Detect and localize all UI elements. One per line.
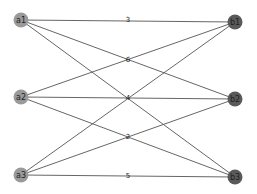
node-label: a1 — [16, 16, 26, 25]
node-b1: b1 — [228, 15, 243, 30]
node-b3: b3 — [228, 170, 243, 185]
node-a2: a2 — [14, 90, 29, 105]
node-label: a2 — [16, 93, 26, 102]
node-label: b3 — [230, 173, 240, 182]
node-label: a3 — [16, 171, 26, 180]
node-a1: a1 — [14, 13, 29, 28]
bipartite-graph: 36425 a1a2a3b1b2b3 — [0, 0, 257, 194]
node-label: b2 — [230, 95, 240, 104]
edge-weight-label: 2 — [126, 133, 130, 141]
edge-weight-label: 5 — [126, 172, 130, 180]
edge-weight-label: 4 — [126, 94, 131, 102]
node-b2: b2 — [228, 92, 243, 107]
node-label: b1 — [230, 18, 240, 27]
edge-weight-label: 6 — [126, 56, 131, 64]
edge-weight-label: 3 — [126, 16, 130, 24]
node-a3: a3 — [14, 168, 29, 183]
edge-labels-group: 36425 — [126, 16, 131, 180]
